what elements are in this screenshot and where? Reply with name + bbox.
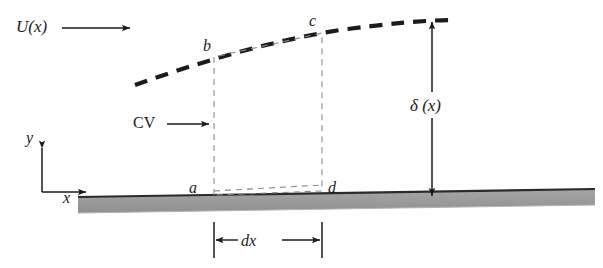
- figure-canvas: [0, 0, 603, 268]
- boundary-layer-thickness-label: δ (x): [410, 97, 441, 114]
- corner-label-c: c: [309, 13, 316, 29]
- dx-dimension-label: dx: [241, 233, 256, 249]
- boundary-layer-control-volume-figure: U(x) CV δ (x) dx y x a b c d: [0, 0, 603, 268]
- x-axis-label: x: [63, 190, 70, 206]
- control-volume-outline: [214, 33, 322, 195]
- corner-label-a: a: [189, 180, 197, 196]
- control-volume-label: CV: [133, 115, 155, 131]
- boundary-layer-edge-curve: [135, 20, 455, 85]
- y-axis-label: y: [26, 130, 33, 146]
- corner-label-b: b: [203, 38, 211, 54]
- control-volume-bottom-edge: [214, 185, 322, 191]
- freestream-velocity-label: U(x): [16, 18, 47, 35]
- corner-label-d: d: [328, 180, 336, 196]
